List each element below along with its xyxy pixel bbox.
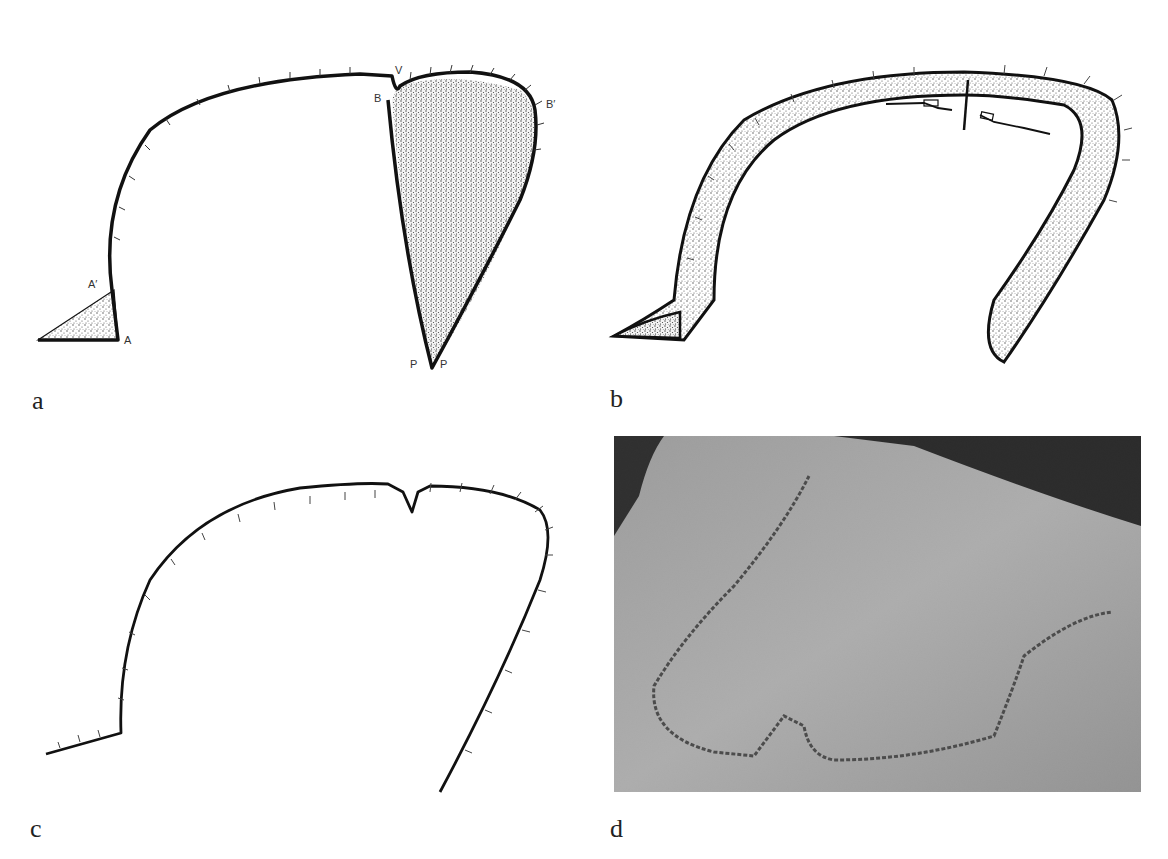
point-label-a-prime: A′ (88, 278, 97, 290)
panel-c: c (0, 430, 580, 859)
panel-label-c: c (30, 816, 42, 842)
point-label-b-prime: B′ (546, 98, 555, 110)
panel-b: b (584, 0, 1168, 420)
photo-content (614, 436, 1141, 792)
clinical-photograph (614, 436, 1141, 792)
panel-label-d: d (610, 816, 623, 842)
point-label-v: V (395, 64, 403, 76)
flap-diagram-b (584, 0, 1168, 420)
flap-diagram-a: A′ A B V B′ P P (0, 0, 580, 420)
point-label-a: A (124, 334, 132, 346)
point-label-p-left: P (410, 358, 417, 370)
flap-diagram-c (0, 430, 580, 859)
panel-label-a: a (32, 388, 44, 414)
panel-label-b: b (610, 386, 623, 412)
panel-a: A′ A B V B′ P P a (0, 0, 580, 420)
point-label-b: B (374, 92, 381, 104)
point-label-p-right: P (440, 358, 447, 370)
